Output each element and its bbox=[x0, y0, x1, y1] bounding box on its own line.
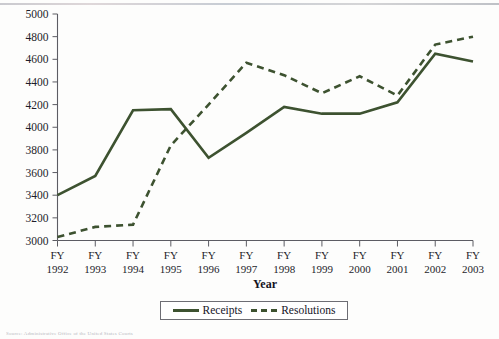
x-tick-label: FY1998 bbox=[273, 249, 296, 275]
x-tick-label: FY1992 bbox=[47, 249, 69, 275]
y-tick-label: 3200 bbox=[26, 212, 49, 224]
y-tick-label: 4400 bbox=[26, 76, 49, 88]
x-tick-labels: FY1992FY1993FY1994FY1995FY1996FY1997FY19… bbox=[47, 249, 485, 275]
x-axis-title: Year bbox=[253, 277, 278, 291]
y-axis-group: 3000320034003600380040004200440046004800… bbox=[26, 8, 58, 247]
data-series-group bbox=[58, 37, 474, 237]
y-tick-label: 4200 bbox=[26, 99, 49, 111]
y-tick-marks bbox=[53, 14, 58, 241]
line-chart: 3000320034003600380040004200440046004800… bbox=[0, 0, 499, 300]
legend-entry-resolutions: Resolutions bbox=[251, 305, 335, 317]
source-note: Source: Administrative Office of the Uni… bbox=[6, 331, 306, 336]
y-tick-label: 3400 bbox=[26, 189, 49, 201]
y-tick-label: 5000 bbox=[26, 8, 49, 20]
legend-entry-receipts: Receipts bbox=[173, 305, 243, 317]
y-tick-label: 4000 bbox=[26, 121, 49, 133]
x-tick-label: FY2003 bbox=[462, 249, 485, 275]
y-tick-label: 3000 bbox=[26, 235, 49, 247]
x-tick-label: FY1999 bbox=[311, 249, 334, 275]
x-tick-marks bbox=[58, 241, 474, 247]
series-line-resolutions bbox=[58, 37, 474, 237]
series-line-receipts bbox=[58, 54, 474, 196]
legend-label-resolutions: Resolutions bbox=[281, 305, 335, 317]
y-tick-labels: 3000320034003600380040004200440046004800… bbox=[26, 8, 49, 247]
x-tick-label: FY1994 bbox=[122, 249, 145, 275]
x-tick-label: FY1996 bbox=[198, 249, 221, 275]
legend-label-receipts: Receipts bbox=[203, 305, 243, 317]
x-tick-label: FY1993 bbox=[84, 249, 107, 275]
y-tick-label: 4600 bbox=[26, 53, 49, 65]
x-tick-label: FY2000 bbox=[349, 249, 372, 275]
x-tick-label: FY1997 bbox=[235, 249, 258, 275]
y-tick-label: 3800 bbox=[26, 144, 49, 156]
legend-swatch-receipts bbox=[173, 309, 199, 312]
x-tick-label: FY2001 bbox=[386, 249, 408, 275]
chart-page: 3000320034003600380040004200440046004800… bbox=[0, 0, 499, 339]
x-tick-label: FY2002 bbox=[424, 249, 446, 275]
y-tick-label: 4800 bbox=[26, 31, 49, 43]
legend-swatch-resolutions bbox=[251, 309, 277, 312]
chart-legend: Receipts Resolutions bbox=[160, 301, 348, 320]
x-tick-label: FY1995 bbox=[160, 249, 183, 275]
y-tick-label: 3600 bbox=[26, 167, 49, 179]
x-axis-group: FY1992FY1993FY1994FY1995FY1996FY1997FY19… bbox=[47, 241, 485, 292]
